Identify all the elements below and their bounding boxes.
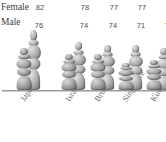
male-figure <box>90 54 106 90</box>
male-figure <box>61 54 77 90</box>
pictograph-chart: Female Male 8278777776 7674747172 JapanI… <box>0 0 166 142</box>
figure-group <box>146 48 166 90</box>
figure-group <box>16 48 46 90</box>
figure-segment <box>17 76 32 90</box>
male-value-label: 74 <box>77 21 91 30</box>
male-value-label: 71 <box>134 21 148 30</box>
legend-label-female: Female <box>1 2 29 12</box>
male-value-label: 74 <box>106 21 120 30</box>
figure-group <box>90 48 120 90</box>
male-value-label: 72 <box>162 21 166 30</box>
male-figure <box>16 48 32 90</box>
female-value-label: 78 <box>78 3 92 12</box>
female-value-label: 77 <box>135 3 149 12</box>
figure-segment <box>119 81 134 90</box>
female-value-label: 77 <box>107 3 121 12</box>
male-figure <box>146 60 162 90</box>
figure-group <box>118 48 148 90</box>
legend-label-male: Male <box>1 17 21 27</box>
male-figure <box>118 63 134 90</box>
figure-segment <box>91 78 106 90</box>
figure-group <box>61 48 91 90</box>
male-value-label: 76 <box>32 21 46 30</box>
female-value-label: 76 <box>163 3 166 12</box>
figure-segment <box>147 80 162 90</box>
female-value-label: 82 <box>33 3 47 12</box>
figure-segment <box>62 78 77 90</box>
